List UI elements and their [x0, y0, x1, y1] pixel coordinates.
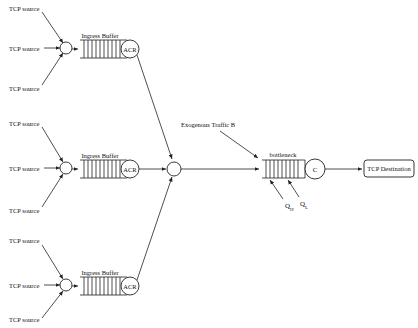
source-arrow — [42, 291, 63, 318]
acr-label: ACR — [123, 46, 137, 53]
exogenous-traffic-label: Exogenous Traffic B — [181, 121, 236, 128]
ingress-group-2: TCP source TCP source TCP source Ingress… — [9, 120, 139, 214]
ingress-buffer-label: Ingress Buffer — [81, 269, 119, 276]
threshold-high-arrow — [270, 180, 283, 199]
ingress-buffer-queue — [80, 277, 127, 295]
tcp-source-label: TCP source — [9, 5, 39, 12]
bottleneck-label: bottleneck — [269, 151, 297, 158]
ingress-group-1: TCP source TCP source TCP source Ingress… — [9, 5, 139, 92]
tcp-source-label: TCP source — [9, 165, 39, 172]
multiplexer-circle — [60, 279, 72, 291]
ingress-group-3: TCP source TCP source TCP source Ingress… — [9, 237, 139, 323]
tcp-destination-label: TCP Destination — [367, 165, 411, 172]
acr-label: ACR — [123, 166, 137, 173]
ingress-buffer-queue — [80, 160, 127, 178]
server-capacity-label: C — [313, 166, 318, 174]
source-arrow — [42, 53, 63, 85]
core-multiplexer-circle — [167, 162, 181, 176]
acr-to-core-arrow — [137, 55, 172, 159]
exogenous-traffic-arrow — [220, 131, 258, 158]
acr-label: ACR — [123, 283, 137, 290]
threshold-high-label: QH — [285, 202, 294, 212]
source-arrow — [42, 12, 63, 43]
source-arrow — [42, 174, 63, 207]
bottleneck-queue — [262, 160, 305, 178]
source-arrow — [42, 127, 63, 162]
ingress-buffer-queue — [80, 40, 127, 58]
threshold-low-arrow — [288, 180, 299, 197]
ingress-buffer-label: Ingress Buffer — [81, 152, 119, 159]
tcp-source-label: TCP source — [9, 316, 39, 323]
tcp-source-label: TCP source — [9, 237, 39, 244]
source-arrow — [42, 245, 63, 279]
tcp-source-label: TCP source — [9, 282, 39, 289]
tcp-source-label: TCP source — [9, 45, 39, 52]
acr-to-core-arrow — [137, 177, 172, 280]
tcp-source-label: TCP source — [9, 85, 39, 92]
multiplexer-circle — [60, 42, 72, 54]
tcp-source-label: TCP source — [9, 207, 39, 214]
threshold-low-label: QL — [300, 200, 308, 210]
multiplexer-circle — [60, 162, 72, 174]
tcp-source-label: TCP source — [9, 120, 39, 127]
ingress-buffer-label: Ingress Buffer — [81, 32, 119, 39]
diagram-canvas: TCP source TCP source TCP source Ingress… — [0, 0, 418, 328]
